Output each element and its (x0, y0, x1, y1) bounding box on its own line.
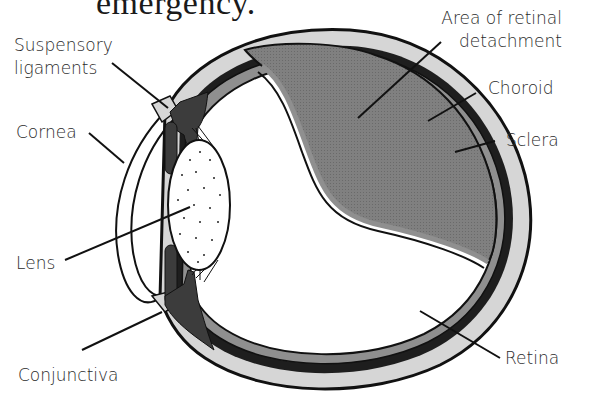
label-area-of-retinal-detachment: Area of retinal detachment (420, 8, 562, 51)
label-cornea: Cornea (16, 122, 77, 142)
eye-diagram: emergency. (0, 0, 589, 404)
label-suspensory-ligaments: Suspensory ligaments (14, 35, 113, 78)
label-conjunctiva: Conjunctiva (18, 365, 119, 385)
label-lens: Lens (16, 253, 55, 273)
leader-cornea (89, 133, 124, 163)
lens (168, 140, 230, 270)
leader-conjunctiva (82, 312, 162, 350)
label-retina: Retina (505, 348, 559, 368)
leader-suspensory (112, 63, 168, 108)
label-sclera: Sclera (506, 130, 559, 150)
label-choroid: Choroid (488, 78, 554, 98)
